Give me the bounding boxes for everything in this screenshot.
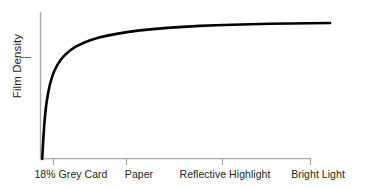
- film-density-chart-figure: Film Density 18% Grey Card Paper Reflect…: [0, 0, 370, 190]
- film-density-curve: [42, 23, 330, 159]
- x-axis-label-bright-light: Bright Light: [268, 168, 368, 180]
- chart-plot-area: [0, 0, 370, 190]
- x-axis-ticks: [54, 159, 311, 165]
